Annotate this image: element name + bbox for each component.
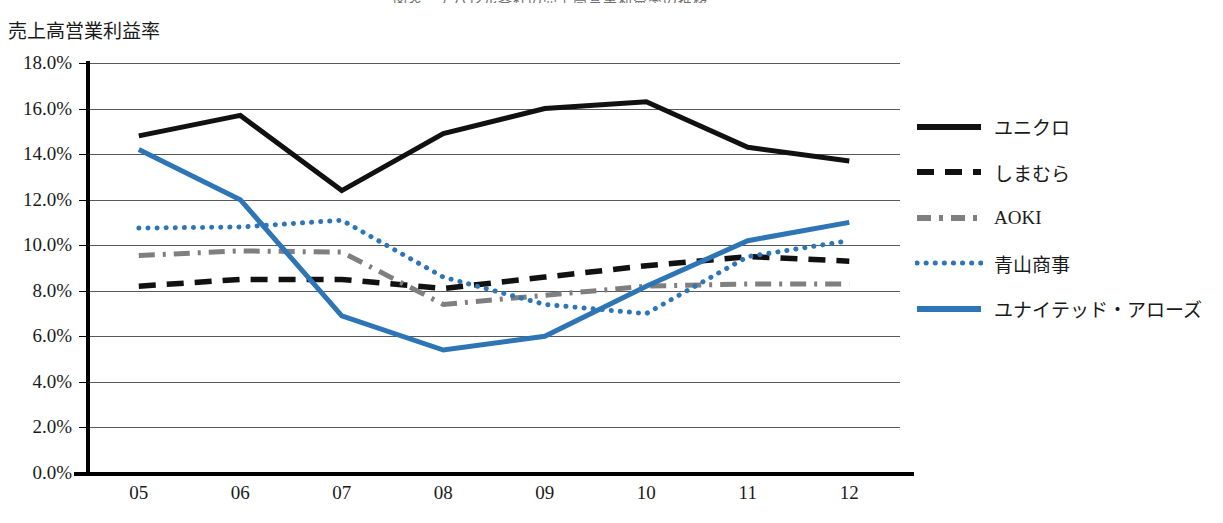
y-axis-label: 8.0%: [32, 280, 72, 302]
legend-swatch-icon: [915, 255, 983, 271]
gridline: [88, 200, 900, 201]
legend-item[interactable]: ユニクロ: [915, 104, 1220, 150]
y-axis-label: 6.0%: [32, 325, 72, 347]
y-axis-label: 14.0%: [23, 143, 72, 165]
y-axis-line: [86, 61, 90, 475]
y-axis-label: 12.0%: [23, 189, 72, 211]
x-axis-label: 06: [231, 482, 250, 504]
gridline: [88, 427, 900, 428]
chart-legend: ユニクロしまむらAOKI青山商事ユナイテッド・アローズ: [915, 104, 1220, 332]
y-axis-label: 10.0%: [23, 234, 72, 256]
legend-label: AOKI: [994, 207, 1042, 229]
x-axis-label: 11: [739, 482, 757, 504]
y-axis-tick: [79, 291, 88, 292]
x-axis-line: [74, 472, 914, 476]
x-axis-label: 07: [332, 482, 351, 504]
legend-item[interactable]: AOKI: [915, 195, 1220, 241]
y-axis-label: 2.0%: [32, 416, 72, 438]
legend-swatch-icon: [915, 164, 983, 180]
x-axis-label: 09: [535, 482, 554, 504]
legend-label: ユニクロ: [994, 113, 1070, 140]
gridline: [88, 109, 900, 110]
legend-swatch-icon: [915, 119, 983, 135]
legend-swatch-icon: [915, 301, 983, 317]
gridline: [88, 63, 900, 64]
x-axis-label: 12: [840, 482, 859, 504]
gridline: [88, 154, 900, 155]
y-axis-label: 18.0%: [23, 52, 72, 74]
y-axis-label: 4.0%: [32, 371, 72, 393]
chart-root: 図表 アパレル各社の売上高営業利益率の推移 売上高営業利益率 ユニクロしまむらA…: [0, 0, 1223, 523]
gridline: [88, 336, 900, 337]
x-axis-label: 05: [129, 482, 148, 504]
gridline: [88, 291, 900, 292]
chart-title-cropped: 図表 アパレル各社の売上高営業利益率の推移: [300, 0, 800, 3]
legend-swatch-icon: [915, 210, 983, 226]
plot-area: [88, 63, 900, 473]
y-axis-tick: [79, 336, 88, 337]
legend-item[interactable]: しまむら: [915, 150, 1220, 196]
y-axis-tick: [79, 200, 88, 201]
y-axis-label: 16.0%: [23, 98, 72, 120]
y-axis-tick: [79, 154, 88, 155]
legend-label: しまむら: [994, 159, 1070, 186]
x-axis-label: 10: [637, 482, 656, 504]
x-axis-label: 08: [434, 482, 453, 504]
y-axis-tick: [79, 427, 88, 428]
y-axis-tick: [79, 382, 88, 383]
legend-label: 青山商事: [994, 250, 1070, 277]
legend-item[interactable]: 青山商事: [915, 241, 1220, 287]
y-axis-tick: [79, 245, 88, 246]
y-axis-label: 0.0%: [32, 462, 72, 484]
y-axis-title: 売上高営業利益率: [8, 16, 160, 43]
gridline: [88, 245, 900, 246]
legend-item[interactable]: ユナイテッド・アローズ: [915, 286, 1220, 332]
y-axis-tick: [79, 63, 88, 64]
y-axis-tick: [79, 473, 88, 474]
gridline: [88, 382, 900, 383]
y-axis-tick: [79, 109, 88, 110]
legend-label: ユナイテッド・アローズ: [994, 295, 1202, 322]
